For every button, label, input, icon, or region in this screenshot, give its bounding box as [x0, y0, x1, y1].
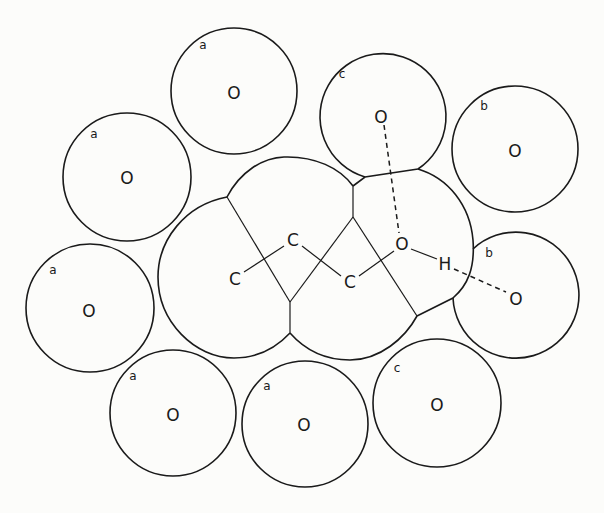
- oxygen-atom-label: O: [508, 141, 521, 161]
- oxygen-atom-label: O: [227, 83, 240, 103]
- bond-c2-c3: [302, 246, 341, 276]
- sphere-class-label: c: [394, 361, 401, 375]
- sphere-s1: a O: [171, 28, 297, 154]
- lobe-c2-outline: [227, 157, 353, 197]
- oxygen-atom-label: O: [395, 234, 408, 254]
- oxygen-atom-label: O: [374, 107, 387, 127]
- sphere-s9: c O: [373, 339, 501, 467]
- oxygen-atom-label: O: [297, 415, 310, 435]
- sphere-class-label: a: [49, 263, 56, 277]
- hydrogen-atom-label: H: [439, 254, 452, 274]
- bond-o1-h1: [411, 249, 437, 259]
- sphere-class-label: a: [263, 379, 270, 393]
- oxygen-atom-label: O: [120, 168, 133, 188]
- sphere-class-label: a: [129, 369, 136, 383]
- sphere-s5: a O: [26, 244, 154, 372]
- sphere-s6: b O: [453, 232, 579, 358]
- diagram-canvas: a O c O b O a O a O b O a O a O c: [0, 0, 604, 513]
- lobe-c3-outline: [290, 316, 417, 360]
- oxygen-atom-label: O: [509, 289, 522, 309]
- lobe-top-edge: [353, 169, 418, 186]
- sphere-s2: c O: [320, 54, 446, 177]
- sphere-s4: a O: [63, 113, 191, 241]
- oxygen-atom-label: O: [166, 405, 179, 425]
- carbon-atom-label: C: [344, 272, 356, 292]
- sphere-class-label: b: [485, 246, 493, 260]
- sphere-s8: a O: [242, 361, 368, 487]
- sphere-class-label: c: [339, 67, 346, 81]
- lobe-o-outline: [417, 169, 473, 316]
- oxygen-atom-label: O: [82, 301, 95, 321]
- sphere-s7: a O: [110, 350, 236, 476]
- carbon-atom-label: C: [287, 230, 299, 250]
- lobe-c1-outline: [158, 197, 290, 358]
- oxygen-atom-label: O: [430, 395, 443, 415]
- sphere-class-label: a: [199, 38, 206, 52]
- sphere-s3: b O: [452, 86, 578, 212]
- sphere-class-label: b: [480, 99, 488, 113]
- bond-c1-c2: [244, 246, 284, 272]
- solvation-diagram: a O c O b O a O a O b O a O a O c: [0, 0, 604, 513]
- molecule: C C C O H: [158, 157, 473, 360]
- hydrogen-bond-o1-s2: [384, 125, 399, 233]
- division-line: [353, 217, 417, 316]
- sphere-class-label: a: [90, 127, 97, 141]
- carbon-atom-label: C: [229, 269, 241, 289]
